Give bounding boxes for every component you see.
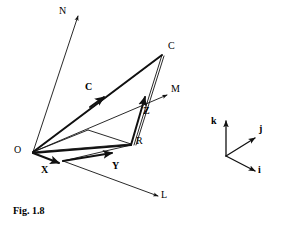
vector-C-arrowhead-seg: [90, 97, 104, 107]
parallelogram-edge-P-R: [88, 130, 131, 144]
label-vector-C: C: [85, 82, 92, 92]
label-point-C: C: [168, 41, 175, 51]
label-R: R: [136, 136, 143, 146]
label-unit-vector-i: i: [258, 165, 261, 175]
axis-line-XL: [63, 161, 158, 196]
label-M: M: [171, 84, 180, 94]
edge-line-Z-C: [147, 55, 162, 103]
vector-X: [33, 153, 59, 163]
figure-caption: Fig. 1.8: [13, 206, 44, 216]
figure-container: N C C M Z R O X Y L k j i Fig. 1.8: [0, 0, 281, 229]
label-O: O: [14, 145, 21, 155]
label-vector-X: X: [41, 165, 48, 175]
label-N: N: [59, 6, 66, 16]
label-unit-vector-k: k: [211, 116, 217, 126]
label-vector-Z: Z: [143, 106, 150, 116]
label-unit-vector-j: j: [259, 124, 262, 134]
vector-Y: [63, 153, 112, 161]
edge-line-R-C: [136, 56, 164, 145]
axis-line-ON: [33, 16, 78, 152]
triad-vector-i: [226, 156, 255, 171]
label-vector-Y: Y: [112, 161, 119, 171]
label-L: L: [161, 190, 167, 200]
triad-vector-j: [226, 138, 255, 156]
vector-diagram-svg: [0, 0, 281, 229]
